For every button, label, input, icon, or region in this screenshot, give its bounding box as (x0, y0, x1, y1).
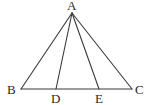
label-point-b: B (7, 82, 16, 97)
label-point-d: D (51, 91, 60, 105)
segment-ae (72, 13, 99, 89)
label-point-e: E (95, 91, 103, 105)
label-point-c: C (135, 82, 144, 97)
triangle-diagram: A B C D E (0, 0, 150, 105)
label-point-a: A (67, 0, 77, 13)
segment-ac (72, 13, 132, 89)
